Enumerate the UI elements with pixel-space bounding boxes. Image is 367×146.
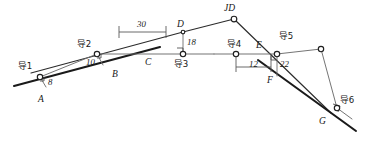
traverse-vertex-s6 xyxy=(321,49,337,108)
station-marker-s3[interactable] xyxy=(180,51,185,56)
station-marker-s4[interactable] xyxy=(233,51,238,56)
point-label-c: C xyxy=(145,58,151,68)
dim-label-8: 8 xyxy=(48,78,52,87)
station-marker-s2[interactable] xyxy=(94,51,99,56)
station-label-s3: 导3 xyxy=(174,60,188,69)
point-label-a: A xyxy=(38,95,44,105)
station-marker-vertex[interactable] xyxy=(318,46,323,51)
station-label-s5: 导5 xyxy=(279,32,293,41)
station-marker-s6[interactable] xyxy=(334,105,339,110)
dim-label-10: 10 xyxy=(86,58,95,67)
station-label-s4: 导4 xyxy=(227,40,241,49)
station-marker-s1[interactable] xyxy=(37,74,42,79)
point-label-g: G xyxy=(319,117,326,127)
station-label-s6: 导6 xyxy=(340,96,354,105)
dim-label-12: 12 xyxy=(249,60,258,69)
road-segment-d-jd xyxy=(183,19,234,32)
point-label-jd: JD xyxy=(224,4,235,14)
road-edge-upper-left xyxy=(31,32,183,73)
station-label-s2: 导2 xyxy=(77,40,91,49)
point-marker-d xyxy=(181,30,185,34)
point-label-d: D xyxy=(177,20,184,30)
dim-label-18: 18 xyxy=(187,38,196,47)
point-marker-jd[interactable] xyxy=(231,16,237,22)
point-label-b: B xyxy=(112,70,118,80)
point-label-e: E xyxy=(256,41,262,51)
traverse-s5-vertex xyxy=(277,49,321,54)
dim-label-22: 22 xyxy=(280,60,289,69)
dim-label-30: 30 xyxy=(137,20,146,29)
traverse-diagram: A B C D JD E F G 导1 导2 导3 导4 导5 导6 8 10 … xyxy=(0,0,367,146)
point-label-f: F xyxy=(267,76,273,86)
station-label-s1: 导1 xyxy=(18,62,32,71)
station-marker-s5[interactable] xyxy=(274,51,279,56)
